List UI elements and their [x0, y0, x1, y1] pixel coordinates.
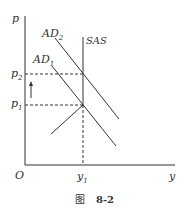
ad-sas-diagram: p AD2 SAS AD1 p2 p1 O y1 y 图 8-2: [0, 0, 184, 214]
ad2-curve: [55, 38, 119, 119]
y1-tick-label: y1: [76, 170, 88, 185]
p2-tick-label: p2: [11, 67, 23, 82]
arrow-head-icon: [29, 81, 33, 86]
ad1-curve: [52, 66, 116, 146]
ad2-label: AD2: [41, 27, 64, 42]
supply-segment: [51, 105, 83, 134]
p1-tick-label: p1: [11, 97, 23, 112]
origin-label: O: [15, 169, 24, 182]
axis-x-label: y: [168, 170, 176, 183]
caption-number: 8-2: [96, 194, 114, 205]
axis-y-label: p: [12, 12, 19, 25]
caption-prefix: 图: [75, 194, 85, 205]
ad1-label: AD1: [32, 53, 54, 68]
sas-label: SAS: [86, 35, 107, 46]
